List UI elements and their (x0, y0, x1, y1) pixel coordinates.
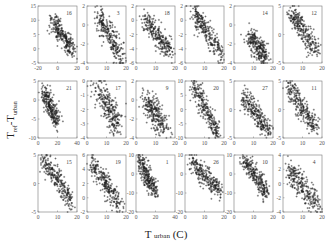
x-tick-label: 20 (221, 140, 227, 146)
panel-id-label: 4 (313, 159, 316, 165)
xlabel-urban: urban (154, 232, 170, 240)
y-tick-label: -10 (127, 190, 135, 196)
y-tick-label: 10 (31, 17, 37, 23)
x-tick-label: 10 (104, 140, 110, 146)
panel-id-label: 1 (166, 159, 169, 165)
x-tick-label: 20 (319, 214, 325, 220)
y-tick-label: -2 (178, 32, 183, 38)
y-tick-label: -6 (129, 60, 134, 66)
y-tick-label: -2 (80, 41, 85, 47)
y-tick-label: -20 (225, 209, 233, 215)
x-tick-label: 10 (300, 214, 306, 220)
x-tick-label: 0 (184, 214, 187, 220)
ylabel-minus-T: -T (4, 115, 16, 125)
scatter-panel-3: -4-202010203 (80, 3, 129, 71)
panel-id-label: 11 (311, 85, 317, 91)
panel-id-label: 14 (262, 10, 268, 16)
x-tick-label: 20 (221, 65, 227, 71)
x-tick-label: 0 (37, 214, 40, 220)
x-tick-label: 0 (37, 140, 40, 146)
y-tick-label: -10 (176, 135, 184, 141)
x-tick-label: -20 (34, 65, 42, 71)
x-tick-label: 20 (153, 214, 159, 220)
data-points (87, 80, 128, 137)
x-tick-label: 10 (202, 140, 208, 146)
x-tick-label: 20 (270, 140, 276, 146)
y-tick-label: 10 (129, 152, 135, 158)
y-tick-label: 0 (278, 32, 281, 38)
scatter-panel-12: -5050102012 (276, 3, 325, 71)
x-tick-label: 20 (123, 65, 129, 71)
y-tick-label: 0 (278, 181, 281, 187)
scatter-panel-16: -5051015-2002016 (31, 3, 81, 71)
y-tick-label: 10 (227, 152, 233, 158)
y-tick-label: 0 (33, 181, 36, 187)
y-tick-label: -5 (178, 121, 183, 127)
y-tick-label: 5 (33, 152, 36, 158)
y-tick-label: 0 (131, 171, 134, 177)
x-tick-label: 20 (74, 214, 80, 220)
y-tick-label: 2 (131, 3, 134, 9)
data-points (186, 5, 226, 64)
data-points (138, 87, 173, 139)
y-tick-label: 0 (33, 46, 36, 52)
y-tick-label: 5 (229, 78, 232, 84)
x-tick-label: 0 (86, 214, 89, 220)
x-tick-label: 0 (233, 65, 236, 71)
y-tick-label: -20 (176, 209, 184, 215)
y-tick-label: -4 (227, 60, 232, 66)
y-tick-label: 15 (31, 3, 37, 9)
x-tick-label: 0 (233, 214, 236, 220)
data-points (46, 13, 78, 60)
x-tick-label: 0 (282, 140, 285, 146)
x-tick-label: 10 (251, 214, 257, 220)
y-tick-label: -4 (129, 135, 134, 141)
y-tick-label: -10 (225, 190, 233, 196)
ylabel-T: T (4, 132, 16, 139)
x-tick-label: 10 (104, 65, 110, 71)
y-tick-label: 10 (178, 152, 184, 158)
x-tick-label: 20 (270, 65, 276, 71)
y-tick-label: 0 (180, 171, 183, 177)
xlabel-T: T (145, 228, 152, 240)
ylabel-ref: ref (12, 125, 18, 132)
scatter-panel-11: -5050102011 (276, 78, 325, 146)
y-tick-label: 2 (131, 78, 134, 84)
y-tick-label: 0 (131, 17, 134, 23)
y-tick-label: 0 (229, 171, 232, 177)
x-tick-label: 0 (184, 140, 187, 146)
y-tick-label: 2 (82, 181, 85, 187)
scatter-panel-27: -5050102027 (227, 78, 276, 146)
x-tick-label: 0 (282, 65, 285, 71)
panel-frame (185, 6, 224, 63)
scatter-panel-15: -5050102015 (31, 152, 80, 220)
panel-id-label: 16 (66, 10, 72, 16)
y-tick-label: 0 (82, 78, 85, 84)
y-tick-label: -2 (129, 32, 134, 38)
panel-id-label: 3 (117, 10, 120, 16)
x-axis-label: T urban (C) (0, 228, 332, 240)
x-tick-label: 20 (172, 65, 178, 71)
y-tick-label: 6 (82, 152, 85, 158)
x-tick-label: 0 (184, 65, 187, 71)
x-tick-label: 20 (123, 140, 129, 146)
scatter-panel-14: -4-2020102014 (227, 3, 276, 71)
panel-id-label: 20 (213, 85, 219, 91)
y-tick-label: 0 (131, 97, 134, 103)
y-tick-label: -4 (129, 46, 134, 52)
y-tick-label: -4 (80, 135, 85, 141)
panel-id-label: 9 (166, 85, 169, 91)
panel-id-label: 19 (115, 159, 121, 165)
scatter-panel-unlabeled: -6-4-20201020 (178, 3, 227, 71)
x-tick-label: 0 (86, 65, 89, 71)
panel-id-label: 10 (262, 159, 268, 165)
y-tick-label: 0 (229, 107, 232, 113)
y-tick-label: 0 (33, 97, 36, 103)
y-tick-label: 5 (278, 3, 281, 9)
x-tick-label: 10 (300, 65, 306, 71)
y-tick-label: 5 (33, 32, 36, 38)
x-tick-label: 0 (135, 214, 138, 220)
data-points (139, 8, 176, 64)
y-tick-label: -2 (80, 209, 85, 215)
x-tick-label: 10 (202, 214, 208, 220)
